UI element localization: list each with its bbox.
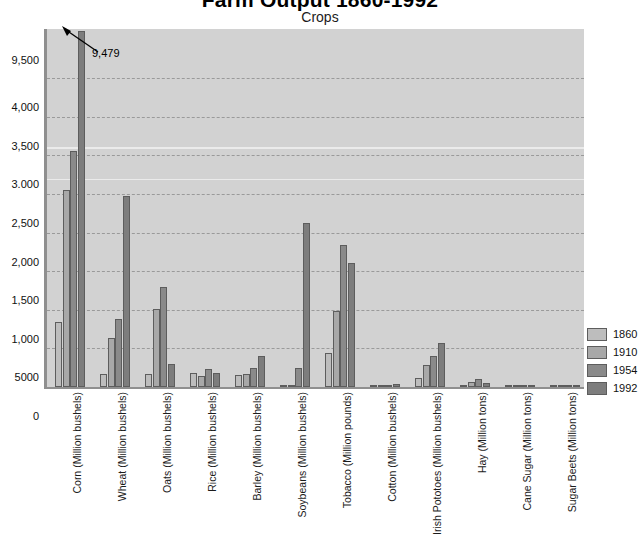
bar-1954[interactable] <box>475 379 482 387</box>
bar-1992[interactable] <box>528 385 535 387</box>
x-axis-category-label: Tobacco (Million pounds) <box>341 392 353 508</box>
x-axis-category-label: Wheat (Million bushels) <box>116 392 128 501</box>
y-axis-tick-label: 9,500 <box>0 54 44 66</box>
x-axis-category-label: Cane Sugar (Million tons) <box>521 392 533 510</box>
bar-1860[interactable] <box>505 385 512 387</box>
bar-1860[interactable] <box>370 385 377 387</box>
legend-item-1910[interactable]: 1910 <box>587 344 637 360</box>
bar-1992[interactable] <box>168 364 175 387</box>
legend-swatch <box>587 364 607 377</box>
bar-1860[interactable] <box>280 385 287 387</box>
bar-1910[interactable] <box>288 385 295 387</box>
bar-1954[interactable] <box>565 385 572 387</box>
x-axis-category-label: Rice (Million bushels) <box>206 392 218 492</box>
y-axis-tick-label: 3,500 <box>0 140 44 152</box>
y-axis-tick-label: 4,000 <box>0 101 44 113</box>
x-axis-category-label: Barley (Million bushels) <box>251 392 263 501</box>
bar-group <box>280 29 310 387</box>
bar-1992[interactable] <box>348 263 355 387</box>
bar-1954[interactable] <box>430 356 437 387</box>
bar-1992[interactable] <box>123 196 130 387</box>
bar-1910[interactable] <box>378 385 385 387</box>
bar-1910[interactable] <box>63 190 70 387</box>
bar-1860[interactable] <box>415 378 422 387</box>
bar-1910[interactable] <box>423 365 430 387</box>
chart-legend: 1860191019541992 <box>587 326 637 398</box>
bar-1860[interactable] <box>460 385 467 387</box>
bar-group <box>100 29 130 387</box>
y-axis-tick-label: 0 <box>0 410 44 422</box>
x-axis-category-label: Irish Pototoes (Million bushels) <box>431 392 443 535</box>
bar-1910[interactable] <box>153 309 160 387</box>
y-axis-tick-label: 5000 <box>0 371 44 383</box>
bar-1910[interactable] <box>513 385 520 387</box>
legend-swatch <box>587 328 607 341</box>
legend-label: 1954 <box>613 364 637 376</box>
bar-group <box>460 29 490 387</box>
bar-1992[interactable] <box>303 223 310 387</box>
bar-group <box>190 29 220 387</box>
bar-1860[interactable] <box>55 322 62 387</box>
legend-label: 1860 <box>613 328 637 340</box>
bar-1860[interactable] <box>550 385 557 387</box>
plot-inner <box>47 29 584 387</box>
x-axis-category-label: Corn (Million bushels) <box>71 392 83 494</box>
bar-1860[interactable] <box>145 374 152 387</box>
bar-1954[interactable] <box>340 245 347 387</box>
bar-1910[interactable] <box>198 376 205 387</box>
legend-swatch <box>587 382 607 395</box>
bar-1954[interactable] <box>385 385 392 387</box>
bar-1954[interactable] <box>250 368 257 387</box>
bar-1954[interactable] <box>160 287 167 387</box>
y-axis-tick-label: 3.000 <box>0 178 44 190</box>
bar-group <box>55 29 85 387</box>
y-axis-tick-label: 1,500 <box>0 294 44 306</box>
plot-area <box>44 29 584 389</box>
bar-1992[interactable] <box>573 385 580 387</box>
legend-item-1954[interactable]: 1954 <box>587 362 637 378</box>
bar-1860[interactable] <box>235 375 242 387</box>
bar-1910[interactable] <box>108 338 115 387</box>
bar-1992[interactable] <box>483 383 490 387</box>
bar-1992[interactable] <box>258 356 265 387</box>
bar-group <box>550 29 580 387</box>
x-axis-category-label: Oats (Million bushels) <box>161 392 173 493</box>
bar-1992[interactable] <box>438 343 445 387</box>
bar-1992[interactable] <box>78 31 85 387</box>
y-axis-tick-label: 2,000 <box>0 256 44 268</box>
y-axis-tick-label: 2,500 <box>0 217 44 229</box>
legend-swatch <box>587 346 607 359</box>
bar-1992[interactable] <box>393 384 400 387</box>
bar-1910[interactable] <box>243 374 250 387</box>
bar-1860[interactable] <box>100 374 107 387</box>
x-axis-category-label: Hay (Million tons) <box>476 392 488 473</box>
legend-item-1992[interactable]: 1992 <box>587 380 637 396</box>
bar-group <box>370 29 400 387</box>
annotation-arrow-icon <box>60 26 100 56</box>
bar-group <box>505 29 535 387</box>
chart-subtitle: Crops <box>0 9 640 25</box>
bar-1860[interactable] <box>325 353 332 387</box>
y-axis: 9,5004,0003,5003.0002,5002,0001,5001,000… <box>0 29 44 389</box>
bar-1910[interactable] <box>468 382 475 387</box>
legend-label: 1992 <box>613 382 637 394</box>
bar-1954[interactable] <box>295 368 302 387</box>
x-axis-category-label: Soybeans (Million bushels) <box>296 392 308 517</box>
x-axis: Corn (Million bushels)Wheat (Million bus… <box>44 392 584 547</box>
bar-group <box>325 29 355 387</box>
bar-1954[interactable] <box>520 385 527 387</box>
bar-1860[interactable] <box>190 373 197 387</box>
legend-label: 1910 <box>613 346 637 358</box>
bar-1954[interactable] <box>70 151 77 387</box>
bar-group <box>415 29 445 387</box>
bar-group <box>235 29 265 387</box>
bar-1910[interactable] <box>333 311 340 387</box>
bar-1910[interactable] <box>558 385 565 387</box>
x-axis-category-label: Sugar Beets (Million tons) <box>566 392 578 512</box>
bar-1992[interactable] <box>213 373 220 387</box>
legend-item-1860[interactable]: 1860 <box>587 326 637 342</box>
bar-group <box>145 29 175 387</box>
y-axis-tick-label: 1,000 <box>0 333 44 345</box>
bar-1954[interactable] <box>115 319 122 387</box>
bar-1954[interactable] <box>205 369 212 387</box>
